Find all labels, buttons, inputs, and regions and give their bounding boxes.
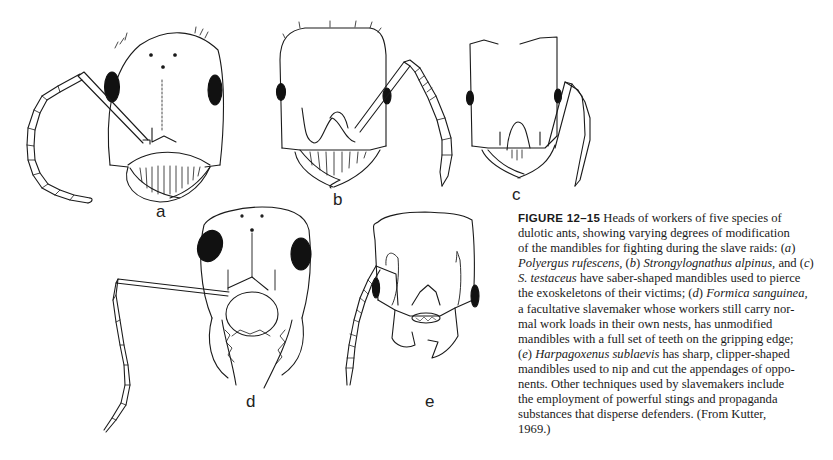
panel-label-b: b: [333, 190, 342, 209]
panel-label-d: d: [246, 392, 255, 411]
caption-text: (: [622, 256, 629, 270]
ant-head-e: [346, 212, 479, 385]
caption-line: of the mandibles for fighting during the…: [518, 241, 830, 256]
caption-line: the employment of powerful stings and pr…: [518, 392, 830, 407]
caption-line: mandibles used to nip and cut the append…: [518, 362, 830, 377]
caption-text: has sharp, clipper-shaped: [659, 347, 790, 361]
caption-line: substances that disperse defenders. (Fro…: [518, 407, 830, 422]
caption-text: and (: [775, 256, 804, 270]
caption-text: substances that disperse defenders. (Fro…: [518, 407, 766, 421]
caption-text: nents. Other techniques used by slavemak…: [518, 377, 784, 391]
caption-text: the employment of powerful stings and pr…: [518, 392, 778, 406]
caption-text: dulotic ants, showing varying degrees of…: [518, 226, 790, 240]
figure-caption: FIGURE 12–15 Heads of workers of five sp…: [518, 211, 830, 437]
caption-line: (e) Harpagoxenus sublaevis has sharp, cl…: [518, 347, 830, 362]
figure-number: FIGURE 12–15: [518, 212, 600, 224]
caption-text: mandibles with a full set of teeth on th…: [518, 332, 794, 346]
ant-head-c: [467, 37, 591, 186]
caption-text: have saber-shaped mandibles used to pier…: [577, 271, 801, 285]
caption-text: of the mandibles for fighting during the…: [518, 241, 785, 255]
caption-line: Polyergus rufescens, (b) Strongylognathu…: [518, 256, 830, 271]
caption-text: the exoskeletons of their victims; (: [518, 286, 693, 300]
caption-italic: Polyergus rufescens,: [518, 256, 622, 270]
ant-head-d: [104, 207, 311, 432]
caption-italic: Harpagoxenus sublaevis: [535, 347, 659, 361]
panel-label-c: c: [512, 185, 521, 204]
caption-line: FIGURE 12–15 Heads of workers of five sp…: [518, 211, 830, 226]
panel-label-e: e: [425, 392, 434, 411]
caption-line: mandibles with a full set of teeth on th…: [518, 332, 830, 347]
caption-text: a facultative slavemaker whose workers s…: [518, 302, 794, 316]
caption-line: nents. Other techniques used by slavemak…: [518, 377, 830, 392]
caption-text: 1969.): [518, 422, 551, 436]
caption-line: the exoskeletons of their victims; (d) F…: [518, 286, 830, 301]
ant-head-b: [277, 21, 453, 188]
caption-text: ): [791, 241, 795, 255]
caption-text: mandibles used to nip and cut the append…: [518, 362, 795, 376]
caption-line: a facultative slavemaker whose workers s…: [518, 302, 830, 317]
caption-line: dulotic ants, showing varying degrees of…: [518, 226, 830, 241]
caption-line: S. testaceus have saber-shaped mandibles…: [518, 271, 830, 286]
caption-line: mal work loads in their own nests, has u…: [518, 317, 830, 332]
panel-label-a: a: [156, 202, 166, 221]
caption-text: mal work loads in their own nests, has u…: [518, 317, 772, 331]
caption-italic: Formica sanguinea,: [706, 286, 807, 300]
caption-text: Heads of workers of five species of: [600, 211, 782, 225]
caption-line: 1969.): [518, 422, 830, 437]
caption-italic: S. testaceus: [518, 271, 577, 285]
caption-text: ): [810, 256, 814, 270]
caption-italic: Strongylognathus alpinus,: [643, 256, 775, 270]
ant-head-a: [27, 27, 224, 203]
